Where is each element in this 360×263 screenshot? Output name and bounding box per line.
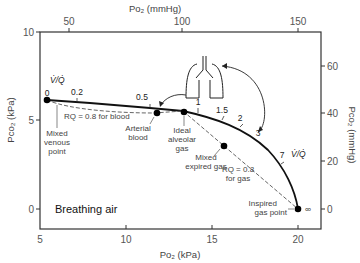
x-axis-bottom [126, 225, 298, 229]
vq-label-1-5: 1.5 [216, 105, 228, 115]
y-tick-0: 0 [28, 204, 34, 215]
x-tick-15: 15 [206, 234, 218, 245]
mixed-expired-label-2: expired gas [185, 162, 226, 171]
o2-co2-diagram: 5 10 15 20 Po₂ (kPa) 50 100 150 Po₂ (mmH… [0, 0, 360, 263]
arrow-to-vq3 [222, 66, 265, 132]
mixed-venous-label-2: venous [44, 138, 70, 147]
y-tick-10: 10 [23, 27, 35, 38]
ideal-alveolar-point [181, 109, 188, 116]
ideal-alveolar-label: Ideal [173, 126, 191, 135]
vq-label-0-5: 0.5 [136, 92, 148, 102]
y-axis-label-mmhg: Pco₂ (mmHg) [347, 107, 358, 164]
vq-label-0: 0 [45, 88, 50, 98]
arterial-blood-point [154, 110, 161, 117]
mixed-venous-label-3: point [48, 147, 66, 156]
inspired-gas-label-2: gas point [255, 208, 288, 217]
arrow-to-vq05 [161, 95, 186, 105]
vq-symbol-right: V̇/Q̇ [291, 149, 306, 159]
mixed-expired-point [221, 143, 228, 150]
arterial-label-2: blood [128, 133, 148, 142]
ideal-alveolar-label-3: gas [176, 144, 189, 153]
right-tick-40: 40 [327, 108, 339, 119]
x-tick-10: 10 [120, 234, 132, 245]
x-axis-label-mmhg: Po₂ (mmHg) [129, 3, 181, 14]
x-tick-20: 20 [292, 234, 304, 245]
arrow-head-lung [222, 63, 227, 69]
mixed-expired-label: Mixed [195, 153, 216, 162]
mixed-venous-label: Mixed [46, 129, 67, 138]
vq-label-7: 7 [280, 150, 285, 160]
vq-label-0-2: 0.2 [71, 87, 83, 97]
top-tick-50: 50 [63, 16, 75, 27]
vq-label-infinity: ∞ [305, 204, 311, 214]
rq-gas-label-2: for gas [226, 174, 250, 183]
right-tick-20: 20 [327, 156, 339, 167]
inspired-gas-point [295, 206, 302, 213]
y-tick-5: 5 [28, 115, 34, 126]
x-tick-5: 5 [37, 234, 43, 245]
ideal-alveolar-label-2: alveolar [168, 135, 196, 144]
rq-blood-label: RQ = 0.8 for blood [64, 112, 130, 121]
rq-gas-label: RQ = 0.8 [222, 165, 255, 174]
breathing-air-label: Breathing air [55, 203, 118, 215]
vq-symbol-left: V̇/Q̇ [50, 75, 65, 85]
arterial-label: Arterial [125, 124, 151, 133]
top-tick-100: 100 [174, 16, 191, 27]
vq-label-2: 2 [238, 113, 243, 123]
right-tick-60: 60 [327, 61, 339, 72]
inspired-gas-label: Inspired [249, 199, 277, 208]
x-axis-label-kpa: Po₂ (kPa) [160, 249, 201, 260]
top-tick-150: 150 [290, 16, 307, 27]
mixed-venous-point [44, 97, 51, 104]
lungs-icon [186, 56, 223, 98]
y-axis-label-kpa: Pco₂ (kPa) [5, 97, 16, 142]
right-tick-0: 0 [327, 204, 333, 215]
